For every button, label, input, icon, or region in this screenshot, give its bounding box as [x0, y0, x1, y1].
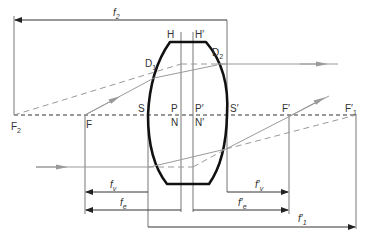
label-p-prime: P′: [195, 103, 204, 114]
label-h-prime: H′: [195, 29, 204, 40]
label-f2: f2: [113, 7, 120, 20]
thick-lens-diagram: F2 F S P N P′ N′ S′ F′ F′1 H H′ D1 D2 f2…: [0, 0, 376, 237]
label-f-prime: F′: [282, 103, 290, 114]
distance-arrows: [15, 20, 355, 227]
label-h: H: [167, 29, 174, 40]
label-fe: fe: [120, 197, 127, 210]
label-f-point: F: [86, 119, 92, 130]
label-fv-prime: f′v: [255, 179, 264, 192]
label-d1: D1: [145, 58, 156, 71]
thick-lens: [148, 42, 227, 184]
label-f-prime-1: F′1: [345, 103, 357, 116]
label-n: N: [171, 117, 178, 128]
label-p: P: [171, 103, 178, 114]
label-s-prime: S′: [230, 103, 239, 114]
label-f1-prime: f′1: [298, 213, 307, 226]
point-labels: F2 F S P N P′ N′ S′ F′ F′1 H H′ D1 D2: [11, 29, 357, 134]
label-n-prime: N′: [195, 117, 204, 128]
label-f2-point: F2: [11, 121, 21, 134]
label-fe-prime: f′e: [238, 197, 247, 210]
label-s: S: [138, 103, 145, 114]
distance-labels: f2 fv fe f′v f′e f′1: [110, 7, 307, 226]
label-fv: fv: [110, 179, 117, 192]
reference-lines: [14, 16, 356, 229]
